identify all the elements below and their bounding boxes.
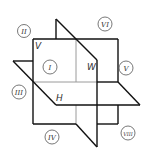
octant-label-viii: VIII <box>123 131 134 137</box>
octant-diagram: V W H I II III IV V VI VIII <box>0 0 152 157</box>
octant-label-v: V <box>123 65 129 73</box>
plane-label-v: V <box>35 41 42 51</box>
intersection-lines <box>33 39 97 124</box>
plane-label-w: W <box>87 62 97 72</box>
octant-label-i: I <box>48 64 52 72</box>
diagram-canvas: V W H I II III IV V VI VIII <box>0 0 152 157</box>
octant-label-iii: III <box>14 89 24 97</box>
octant-label-vi: VI <box>101 21 109 29</box>
plane-label-h: H <box>56 93 63 103</box>
plane-w <box>56 19 97 147</box>
octant-label-iv: IV <box>47 134 57 142</box>
octant-label-ii: II <box>20 28 27 36</box>
